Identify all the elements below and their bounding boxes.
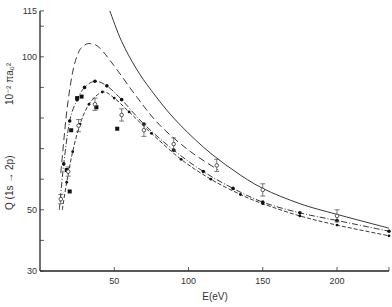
marker-point: [387, 229, 391, 233]
x-tick-label: 200: [329, 276, 344, 286]
marker-point: [101, 91, 104, 94]
x-tick-label: 50: [109, 276, 119, 286]
marker-point: [88, 103, 91, 106]
marker-point: [298, 211, 302, 215]
y-tick-label: 30: [27, 266, 37, 276]
marker-point: [65, 181, 68, 184]
open-circle-point: [93, 102, 97, 106]
filled-square-point: [69, 128, 73, 132]
open-circle-point: [77, 124, 81, 128]
marker-point: [239, 193, 242, 196]
marker-point: [231, 187, 235, 191]
filled-square-point: [115, 127, 119, 131]
marker-point: [180, 158, 183, 161]
svg-text:Q (1s → 2p): Q (1s → 2p): [4, 156, 15, 210]
marker-point: [105, 84, 109, 88]
marker-point: [128, 110, 131, 113]
open-circle-point: [66, 170, 70, 174]
curve-dash-dot-with-points: [59, 81, 389, 231]
marker-point: [388, 234, 391, 237]
curve-dash-with-points: [62, 92, 389, 236]
marker-point: [336, 224, 339, 227]
x-axis-label: E(eV): [202, 291, 228, 302]
y-axis-label: Q (1s → 2p) 10⁻² πa₀²: [4, 62, 15, 210]
curve-solid-theory: [110, 11, 389, 228]
open-circle-point: [142, 128, 146, 132]
open-circle-point: [335, 214, 339, 218]
open-circle-point: [59, 197, 63, 201]
filled-square-point: [80, 95, 84, 99]
open-circle-point: [120, 113, 124, 117]
x-tick-label: 100: [181, 276, 196, 286]
marker-point: [62, 162, 66, 166]
open-circle-point: [215, 164, 219, 168]
x-tick-label: 150: [255, 276, 270, 286]
marker-point: [202, 170, 206, 174]
curves: [59, 11, 390, 237]
marker-point: [261, 202, 264, 205]
y-tick-label: 100: [22, 52, 37, 62]
y-tick-label: 115: [23, 6, 37, 16]
marker-point: [150, 132, 153, 135]
axes: 305010011550100150200: [22, 6, 389, 286]
cross-section-chart: 305010011550100150200 E(eV) Q (1s → 2p) …: [0, 0, 392, 307]
marker-point: [209, 178, 212, 181]
marker-point: [83, 86, 87, 90]
filled-square-point: [68, 189, 72, 193]
y-tick-label: 50: [27, 205, 37, 215]
marker-point: [298, 215, 301, 218]
filled-square-point: [75, 96, 79, 100]
marker-point: [68, 119, 72, 123]
svg-text:10⁻² πa₀²: 10⁻² πa₀²: [4, 62, 15, 105]
open-circle-point: [261, 188, 265, 192]
curve-long-dash-theory: [61, 44, 218, 174]
marker-point: [93, 79, 97, 83]
marker-point: [113, 97, 116, 100]
open-circle-point: [172, 142, 176, 146]
marker-point: [71, 150, 74, 153]
marker-point: [120, 98, 124, 102]
